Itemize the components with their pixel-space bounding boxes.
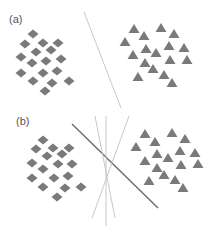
diamond-marker bbox=[48, 144, 59, 153]
diamond-marker bbox=[52, 67, 63, 76]
diamond-marker bbox=[38, 165, 49, 174]
triangle-marker bbox=[176, 160, 187, 169]
diamond-marker bbox=[38, 183, 49, 192]
triangle-marker bbox=[139, 31, 150, 40]
diamond-marker bbox=[16, 69, 27, 78]
triangle-marker bbox=[151, 48, 162, 57]
triangle-marker bbox=[129, 24, 140, 33]
panel-b bbox=[27, 116, 204, 226]
triangle-marker bbox=[120, 37, 131, 46]
diamond-marker bbox=[27, 174, 38, 183]
triangle-marker bbox=[159, 70, 170, 79]
triangle-marker bbox=[140, 58, 151, 67]
triangle-marker bbox=[141, 44, 152, 53]
diamond-marker bbox=[47, 79, 58, 88]
diamond-marker bbox=[53, 160, 64, 169]
triangle-marker bbox=[165, 55, 176, 64]
diamond-marker bbox=[31, 145, 42, 154]
diamond-marker bbox=[76, 183, 87, 192]
diamond-marker bbox=[49, 174, 60, 183]
triangle-marker bbox=[167, 78, 178, 87]
diagram-canvas bbox=[0, 0, 214, 229]
triangle-marker bbox=[152, 163, 163, 172]
diamond-marker bbox=[64, 144, 75, 153]
triangle-marker bbox=[163, 153, 174, 162]
diamond-marker bbox=[64, 77, 75, 86]
triangle-marker bbox=[179, 43, 190, 52]
triangle-marker bbox=[180, 134, 191, 143]
diamond-marker bbox=[67, 160, 78, 169]
diamond-marker bbox=[63, 172, 74, 181]
diamond-marker bbox=[38, 39, 49, 48]
panel-a bbox=[16, 12, 193, 108]
triangle-marker bbox=[156, 23, 167, 32]
triangle-marker bbox=[178, 183, 189, 192]
diamond-marker bbox=[57, 150, 68, 159]
diamond-marker bbox=[27, 159, 38, 168]
diamond-marker bbox=[53, 39, 64, 48]
diamond-marker bbox=[20, 40, 31, 49]
triangle-marker bbox=[167, 128, 178, 137]
triangle-marker bbox=[150, 137, 161, 146]
triangle-marker bbox=[170, 175, 181, 184]
diamond-marker bbox=[52, 193, 63, 202]
diamond-marker bbox=[28, 30, 39, 39]
triangle-marker bbox=[182, 55, 193, 64]
diamond-marker bbox=[42, 152, 53, 161]
triangle-marker bbox=[190, 148, 201, 157]
diamond-marker bbox=[31, 48, 42, 57]
triangle-marker bbox=[152, 149, 163, 158]
triangle-marker bbox=[133, 72, 144, 81]
diamond-marker bbox=[41, 57, 52, 66]
triangle-marker bbox=[193, 159, 204, 168]
separator-line-light bbox=[84, 12, 121, 108]
diamond-marker bbox=[46, 46, 57, 55]
triangle-marker bbox=[169, 29, 180, 38]
triangle-marker bbox=[164, 41, 175, 50]
diamond-marker bbox=[27, 59, 38, 68]
triangle-marker bbox=[140, 129, 151, 138]
diamond-marker bbox=[38, 69, 49, 78]
diamond-marker bbox=[16, 53, 27, 62]
diamond-marker bbox=[40, 87, 51, 96]
triangle-marker bbox=[175, 146, 186, 155]
diamond-marker bbox=[28, 77, 39, 86]
diamond-marker bbox=[56, 55, 67, 64]
diamond-marker bbox=[60, 184, 71, 193]
triangle-marker bbox=[128, 50, 139, 59]
triangle-marker bbox=[131, 142, 142, 151]
triangle-marker bbox=[140, 156, 151, 165]
diamond-marker bbox=[38, 136, 49, 145]
triangle-marker bbox=[144, 176, 155, 185]
